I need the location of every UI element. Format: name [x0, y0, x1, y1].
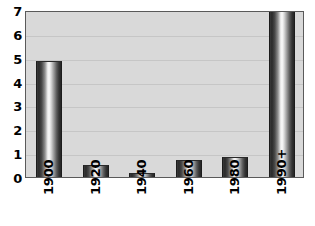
x-tick-label: 1960	[182, 160, 195, 195]
plot-area	[25, 11, 304, 178]
x-tick-label: 1990+	[275, 149, 288, 195]
x-axis: 190019201940196019801990+	[25, 178, 304, 226]
y-tick-label: 0	[0, 172, 22, 185]
bars-layer	[26, 12, 303, 177]
y-tick-label: 2	[0, 124, 22, 137]
x-tick-label: 1920	[89, 160, 102, 195]
y-tick-label: 7	[0, 5, 22, 18]
x-tick-label: 1940	[135, 160, 148, 195]
y-axis: 01234567	[0, 11, 22, 178]
y-tick-label: 4	[0, 76, 22, 89]
y-tick-label: 3	[0, 100, 22, 113]
bar-chart: 01234567 190019201940196019801990+	[0, 0, 315, 226]
y-tick-label: 5	[0, 52, 22, 65]
y-tick-label: 6	[0, 28, 22, 41]
x-tick-label: 1900	[42, 160, 55, 195]
x-tick-label: 1980	[228, 160, 241, 195]
y-tick-label: 1	[0, 148, 22, 161]
